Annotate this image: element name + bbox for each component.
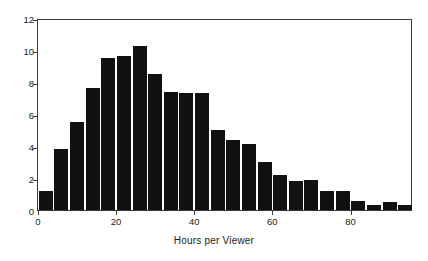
histogram-bar: [179, 93, 193, 210]
histogram-bar: [273, 175, 287, 210]
histogram-bar: [148, 74, 162, 210]
y-axis-tick-label: 4: [29, 143, 34, 153]
histogram-bar: [398, 205, 412, 210]
x-axis-tick-label: 60: [267, 217, 278, 227]
y-axis-tick-label: 2: [29, 175, 34, 185]
histogram-bar: [133, 46, 147, 210]
y-axis-tick-label: 8: [29, 79, 34, 89]
histogram-bar: [211, 130, 225, 210]
y-axis-tick-label: 0: [29, 207, 34, 217]
x-axis-tick-label: 80: [345, 217, 356, 227]
histogram-bar: [70, 122, 84, 210]
x-axis-tick-label: 40: [189, 217, 200, 227]
y-axis-tick-label: 10: [23, 47, 34, 57]
histogram-bar: [258, 162, 272, 210]
x-axis-tick: [38, 210, 39, 215]
histogram-bar: [195, 93, 209, 210]
histogram-bar: [54, 149, 68, 210]
y-axis-tick-label: 12: [23, 15, 34, 25]
histogram-bar: [351, 201, 365, 210]
histogram-bar: [86, 88, 100, 210]
histogram-bar: [242, 144, 256, 210]
histogram-bar: [383, 202, 397, 210]
histogram-bar: [304, 180, 318, 210]
histogram-bar: [39, 191, 53, 210]
histogram-bar: [336, 191, 350, 210]
histogram-bar: [164, 92, 178, 210]
histogram-bar: [117, 56, 131, 210]
x-axis-tick: [351, 210, 352, 215]
x-axis-tick: [194, 210, 195, 215]
x-axis-title: Hours per Viewer: [0, 236, 428, 246]
bar-series: [38, 20, 411, 210]
x-axis-tick: [272, 210, 273, 215]
x-axis-tick-label: 20: [111, 217, 122, 227]
histogram-bar: [320, 191, 334, 210]
histogram-bar: [367, 205, 381, 210]
y-axis-tick-label: 6: [29, 111, 34, 121]
histogram-bar: [226, 140, 240, 210]
histogram-figure: 024681012 020406080 Hours per Viewer: [0, 0, 428, 261]
histogram-bar: [289, 181, 303, 210]
plot-area: 024681012 020406080: [37, 19, 412, 211]
x-axis-tick-label: 0: [35, 217, 40, 227]
x-axis-tick: [116, 210, 117, 215]
histogram-bar: [101, 58, 115, 210]
